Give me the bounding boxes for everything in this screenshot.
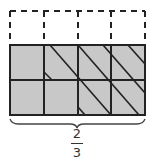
fraction-bar <box>71 143 83 144</box>
fraction-numerator: 2 <box>66 127 88 140</box>
fraction-denominator: 3 <box>66 146 88 159</box>
dashed-empty-row <box>10 11 145 45</box>
